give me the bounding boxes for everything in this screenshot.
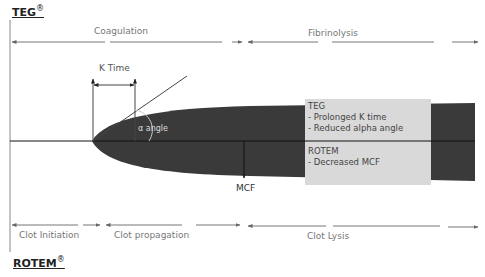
info-teg-line2: - Reduced alpha angle [308,123,403,134]
registered-mark: ® [36,4,44,13]
clot-lysis-label: Clot Lysis [307,231,349,241]
rotem-header: ROTEM® [13,255,65,270]
bottom-phase-arrows [12,225,478,227]
registered-mark: ® [57,255,65,264]
mcf-label: MCF [236,183,255,193]
clot-initiation-label: Clot Initiation [19,230,79,240]
rotem-title: ROTEM [13,257,57,270]
info-box-teg: TEG - Prolonged K time - Reduced alpha a… [308,101,403,134]
info-rotem-title: ROTEM [308,146,380,157]
info-teg-title: TEG [308,101,403,112]
teg-title: TEG [12,6,36,19]
alpha-angle-label: α angle [138,124,168,133]
coagulation-label: Coagulation [94,26,148,36]
info-teg-line1: - Prolonged K time [308,112,403,123]
fibrinolysis-label: Fibrinolysis [308,28,358,38]
teg-header: TEG® [12,4,44,19]
k-time-label: K Time [99,63,130,73]
clot-propagation-label: Clot propagation [114,230,189,240]
info-box-rotem: ROTEM - Decreased MCF [308,146,380,168]
info-rotem-line1: - Decreased MCF [308,157,380,168]
